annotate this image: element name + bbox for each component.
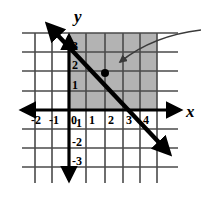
y-tick-neg2: -2 (72, 135, 82, 149)
x-axis-label: x (185, 102, 195, 121)
y-tick-1: 1 (72, 78, 78, 92)
x-tick-2: 2 (108, 113, 114, 127)
y-axis-label: y (72, 7, 82, 26)
y-tick-2: 2 (72, 58, 78, 72)
y-tick-neg3: -3 (72, 154, 82, 168)
x-tick-neg2: -2 (31, 113, 41, 127)
coordinate-plane-svg: y x -2 -1 0 1 2 3 4 3 2 1 -1 -2 -3 (0, 0, 201, 198)
x-tick-1: 1 (89, 113, 95, 127)
x-tick-4: 4 (143, 113, 149, 127)
marked-point (101, 69, 109, 77)
x-tick-3: 3 (126, 113, 132, 127)
y-tick-3: 3 (72, 39, 78, 53)
graph-figure: y x -2 -1 0 1 2 3 4 3 2 1 -1 -2 -3 (0, 0, 201, 198)
y-tick-neg1: -1 (72, 116, 82, 130)
x-tick-neg1: -1 (49, 113, 59, 127)
